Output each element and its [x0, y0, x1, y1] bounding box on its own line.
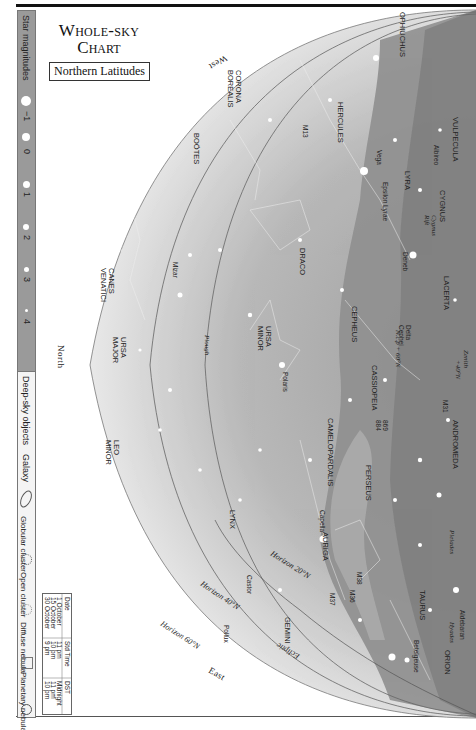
svg-text:Date: Date [64, 597, 71, 611]
svg-text:Pleiades: Pleiades [448, 529, 456, 554]
svg-text:Pollux: Pollux [223, 625, 230, 643]
svg-text:BOÖTES: BOÖTES [192, 133, 201, 164]
svg-text:9 pm: 9 pm [43, 641, 51, 655]
svg-text:869: 869 [382, 420, 389, 431]
svg-text:CASSIOPEIA: CASSIOPEIA [370, 365, 379, 410]
svg-text:+40°N: +40°N [454, 360, 462, 380]
svg-text:AURIGA: AURIGA [321, 532, 330, 561]
deep-sky-legend: Deep-sky objects Galaxy Globular cluster… [18, 371, 35, 717]
svg-text:Capella: Capella [318, 510, 326, 532]
svg-text:Aldebaran: Aldebaran [459, 610, 466, 640]
svg-text:MAJOR: MAJOR [111, 337, 120, 364]
star-magnitudes-label: Star magnitudes [21, 15, 31, 81]
svg-text:ORION: ORION [443, 650, 452, 675]
svg-text:OPHIUCHUS: OPHIUCHUS [398, 12, 407, 57]
svg-text:M37: M37 [329, 593, 336, 606]
svg-text:M13: M13 [302, 125, 309, 138]
mag-dot-icon [24, 267, 29, 272]
svg-text:M36: M36 [349, 590, 356, 603]
svg-text:Polaris: Polaris [282, 372, 289, 393]
svg-text:GEMINI: GEMINI [283, 617, 292, 644]
svg-text:VULPECULA: VULPECULA [451, 117, 460, 162]
subtitle-box: Northern Latitudes [49, 62, 150, 81]
svg-text:N.c.p + 60°N: N.c.p + 60°N [394, 329, 402, 368]
svg-text:CEPHEUS: CEPHEUS [350, 306, 359, 342]
svg-text:30 October: 30 October [44, 597, 51, 630]
svg-text:M38: M38 [356, 572, 363, 585]
compass-west: West [207, 53, 229, 72]
svg-text:Epsilon Lyrae: Epsilon Lyrae [381, 182, 389, 222]
svg-text:CAMELOPARDALIS: CAMELOPARDALIS [326, 418, 335, 486]
svg-text:Std Time: Std Time [64, 641, 71, 667]
svg-text:PERSEUS: PERSEUS [364, 465, 373, 501]
observing-times-table: Date Std Time DST 1 October 11 pm Midnig… [42, 593, 72, 715]
legend-sidebar: Star magnitudes −1 0 1 2 3 4 Deep-sky ob… [17, 10, 36, 718]
svg-text:Rift: Rift [423, 214, 431, 226]
title-line-2: Chart [44, 39, 154, 56]
planetary-nebula-icon [21, 704, 32, 715]
svg-text:Castor: Castor [246, 575, 253, 595]
svg-text:Horizon 60°N: Horizon 60°N [158, 619, 202, 652]
compass-north: North [56, 345, 66, 369]
mag-dot-icon [23, 181, 30, 188]
svg-text:Albireo: Albireo [433, 145, 440, 166]
svg-text:Zenith: Zenith [462, 350, 470, 368]
svg-text:LACERTA: LACERTA [442, 276, 451, 310]
svg-text:Vega: Vega [375, 150, 383, 165]
svg-text:Mizar: Mizar [172, 262, 179, 279]
svg-text:Deneb: Deneb [402, 252, 409, 272]
svg-text:MINOR: MINOR [104, 440, 113, 466]
chart-title: Whole-sky Chart [44, 22, 154, 56]
svg-text:M31: M31 [442, 400, 449, 413]
svg-text:BOREALIS: BOREALIS [226, 70, 235, 108]
svg-text:LYRA: LYRA [403, 171, 412, 190]
svg-text:Betelgeuse: Betelgeuse [412, 640, 420, 673]
open-cluster-icon [21, 604, 32, 615]
svg-text:CYGNUS: CYGNUS [438, 190, 447, 222]
mag-dot-icon [21, 96, 31, 106]
mag-dot-icon [25, 309, 28, 312]
mag-dot-icon [22, 133, 30, 141]
svg-text:DRACO: DRACO [298, 248, 307, 275]
title-line-1: Whole-sky [44, 22, 154, 39]
galaxy-ellipse-icon [18, 489, 35, 510]
svg-text:10 pm: 10 pm [43, 681, 51, 699]
svg-text:DST: DST [64, 681, 71, 694]
globular-cluster-icon [21, 554, 32, 565]
svg-text:884: 884 [375, 420, 382, 431]
svg-text:MINOR: MINOR [256, 326, 265, 352]
svg-text:Hyades: Hyades [448, 621, 456, 643]
svg-text:Delta: Delta [405, 325, 412, 341]
svg-text:HERCULES: HERCULES [336, 102, 345, 143]
svg-text:TAURUS: TAURUS [418, 590, 427, 620]
mag-dot-icon [23, 224, 29, 230]
compass-east: East [207, 665, 227, 682]
diffuse-nebula-icon [21, 657, 33, 669]
svg-text:ANDROMEDA: ANDROMEDA [451, 420, 460, 469]
svg-text:VENATICI: VENATICI [99, 268, 108, 302]
svg-text:Plough: Plough [203, 334, 211, 356]
svg-text:LYNX: LYNX [228, 510, 237, 529]
